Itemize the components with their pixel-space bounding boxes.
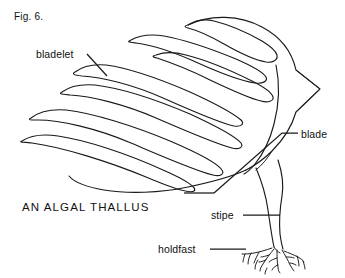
- holdfast-haptera-1b: [254, 252, 259, 263]
- bladelet-frond-5: [61, 85, 242, 149]
- holdfast-haptera-1d: [243, 254, 245, 262]
- label-blade: blade: [301, 128, 327, 140]
- holdfast-haptera-4c: [290, 263, 296, 265]
- figure-caption: AN ALGAL THALLUS: [22, 201, 150, 213]
- holdfast-group: [242, 248, 305, 274]
- holdfast-haptera-7: [265, 268, 267, 274]
- bladelet-frond-6: [29, 110, 222, 176]
- holdfast-haptera-3b: [269, 258, 277, 262]
- label-holdfast: holdfast: [158, 243, 196, 255]
- label-bladelet: bladelet: [36, 48, 74, 60]
- holdfast-haptera-3: [277, 250, 280, 273]
- holdfast-haptera-4b: [286, 257, 294, 258]
- holdfast-haptera-6: [255, 260, 258, 269]
- bladelet-group: [21, 20, 277, 192]
- algal-thallus-drawing: [0, 0, 345, 278]
- bladelet-frond-1: [185, 20, 277, 62]
- algal-thallus-figure: Fig. 6. bladelet blade stipe holdfast AN…: [0, 0, 345, 278]
- holdfast-haptera-5: [284, 251, 304, 262]
- holdfast-haptera-1: [242, 248, 272, 254]
- blade-tip-crease: [296, 70, 320, 112]
- holdfast-haptera-3c: [272, 265, 278, 270]
- bladelet-frond-3: [153, 53, 273, 102]
- blade-outline: [188, 17, 320, 170]
- label-stipe: stipe: [211, 209, 234, 221]
- bladelet-frond-7: [21, 135, 195, 192]
- holdfast-haptera-1c: [248, 253, 251, 264]
- stipe-left-edge: [256, 168, 274, 247]
- stipe-group: [256, 160, 283, 253]
- figure-number: Fig. 6.: [14, 11, 43, 22]
- stipe-right-edge: [278, 160, 283, 249]
